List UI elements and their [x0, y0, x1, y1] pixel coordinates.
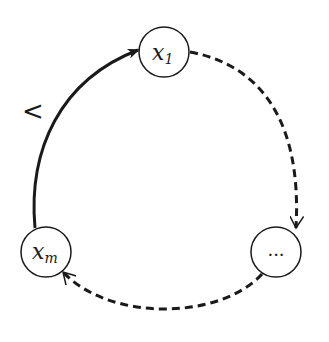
- cycle-diagram: < x1 ... xm: [0, 0, 329, 342]
- edge-label-less-than: <: [22, 96, 44, 126]
- node-xm-label: x: [32, 239, 45, 264]
- edge-x1-to-dots: [190, 52, 297, 228]
- node-ellipsis-label: ...: [267, 239, 284, 260]
- edge-dots-to-xm: [63, 272, 262, 309]
- node-x1-subscript: 1: [164, 51, 173, 67]
- node-xm: xm: [21, 227, 71, 277]
- node-x1-label: x: [152, 40, 165, 65]
- node-xm-subscript: m: [44, 250, 57, 266]
- node-ellipsis: ...: [251, 227, 301, 277]
- node-x1: x1: [139, 27, 189, 77]
- edge-xm-to-x1: [34, 50, 138, 228]
